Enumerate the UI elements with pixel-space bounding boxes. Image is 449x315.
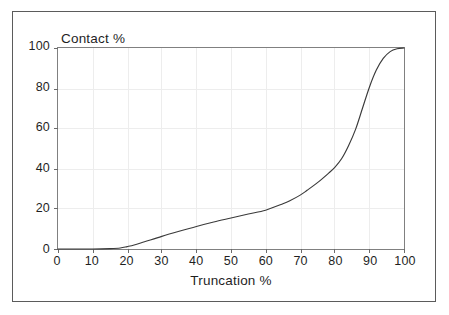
- y-tick-label: 100: [8, 39, 50, 53]
- x-axis-label: Truncation %: [57, 273, 405, 288]
- y-tick-label: 0: [8, 242, 50, 256]
- y-tick-label: 20: [8, 201, 50, 215]
- chart-figure: Contact % Truncation % 01020304050607080…: [0, 0, 449, 315]
- y-tick-label: 60: [8, 120, 50, 134]
- data-curve-layer: [58, 48, 404, 249]
- x-tick-label: 100: [385, 254, 425, 268]
- plot-area: [57, 47, 405, 250]
- data-series-0: [58, 48, 404, 249]
- y-tick-label: 80: [8, 80, 50, 94]
- y-tick-label: 40: [8, 161, 50, 175]
- y-axis-label: Contact %: [61, 31, 125, 46]
